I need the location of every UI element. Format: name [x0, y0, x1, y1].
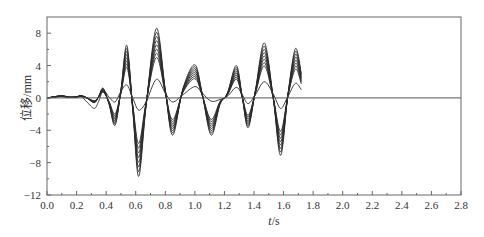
y-tick-label: 8 — [36, 27, 42, 39]
x-tick-label: 0.6 — [129, 199, 143, 211]
x-tick-label: 2.0 — [336, 199, 350, 211]
x-tick-label: 2.8 — [454, 199, 468, 211]
x-axis-ticks: 0.00.20.40.60.81.01.21.41.61.82.02.22.42… — [40, 191, 468, 211]
y-tick-label: −4 — [29, 124, 41, 136]
displacement-time-chart: 0.00.20.40.60.81.01.21.41.61.82.02.22.42… — [0, 0, 484, 237]
x-tick-label: 2.6 — [425, 199, 439, 211]
y-tick-label: −12 — [24, 189, 41, 201]
x-tick-label: 1.8 — [306, 199, 320, 211]
x-tick-label: 1.0 — [188, 199, 202, 211]
x-axis-title-unit: /s — [272, 214, 280, 228]
series-curve-low — [47, 79, 301, 110]
y-tick-label: 0 — [36, 92, 42, 104]
y-tick-label: 4 — [36, 60, 42, 72]
y-tick-label: −8 — [29, 157, 41, 169]
x-tick-label: 0.2 — [70, 199, 84, 211]
x-tick-label: 0.0 — [40, 199, 54, 211]
x-tick-label: 1.6 — [277, 199, 291, 211]
x-tick-label: 1.4 — [247, 199, 261, 211]
x-tick-label: 2.4 — [395, 199, 409, 211]
x-tick-label: 0.8 — [158, 199, 172, 211]
x-tick-label: 0.4 — [99, 199, 113, 211]
x-tick-label: 1.2 — [218, 199, 232, 211]
x-axis-title: t/s — [268, 214, 280, 228]
y-axis-title: 位移/mm — [19, 74, 34, 121]
data-curves — [47, 28, 301, 176]
series-curve-6 — [47, 49, 301, 153]
x-tick-label: 2.2 — [365, 199, 379, 211]
